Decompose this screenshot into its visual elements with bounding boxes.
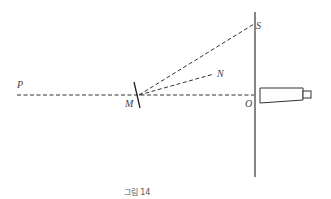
label-o: O <box>245 98 252 109</box>
ray-mn-dashed <box>139 74 214 95</box>
label-m: M <box>124 98 134 109</box>
diagram-canvas: P M N S O 그림 14 <box>0 0 331 199</box>
label-s: S <box>256 20 261 31</box>
telescope-eyepiece <box>303 91 311 98</box>
label-p: P <box>16 79 23 90</box>
mirror-scale-diagram: P M N S O 그림 14 <box>0 0 331 199</box>
label-n: N <box>216 68 225 79</box>
ray-ms-dashed <box>139 24 254 95</box>
telescope-body <box>260 88 303 103</box>
figure-caption: 그림 14 <box>124 187 151 197</box>
